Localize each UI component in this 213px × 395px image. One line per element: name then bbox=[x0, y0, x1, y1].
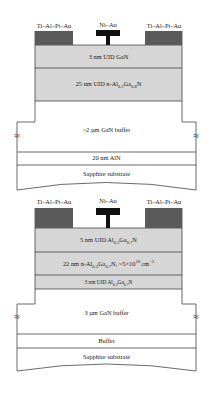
top-aln-label: 20 nm AlN bbox=[17, 155, 196, 161]
top-gate-stem bbox=[106, 36, 110, 45]
break-mark-icon: ≈ bbox=[190, 312, 202, 322]
break-mark-icon: ≈ bbox=[190, 131, 202, 141]
bottom-substrate-label: Sapphire substrate bbox=[17, 354, 196, 360]
text: 25 nm UID n-Al bbox=[76, 80, 118, 87]
bottom-nucleation-label: Buffer bbox=[17, 338, 196, 344]
bottom-gate-label: Ni–Au bbox=[90, 198, 126, 204]
top-buffer-label: ~2 µm GaN buffer bbox=[17, 127, 196, 133]
exponent: −3 bbox=[149, 259, 154, 264]
top-drain-contact bbox=[145, 31, 182, 45]
top-drain-label: Ti–Al–Pt–Au bbox=[140, 23, 188, 29]
bottom-gate-head bbox=[96, 208, 120, 215]
bottom-cap-label: 5 nm UID Al0.3Ga0.7N bbox=[35, 237, 182, 243]
break-mark-icon: ≈ bbox=[11, 131, 23, 141]
bottom-source-label: Ti–Al–Pt–Au bbox=[30, 199, 78, 205]
top-cap-label: 3 nm UID GaN bbox=[35, 54, 182, 60]
bottom-gate-stem bbox=[106, 215, 110, 228]
text: 3 nm UID Al bbox=[85, 279, 113, 285]
top-barrier-label: 25 nm UID n-Al0.2Ga0.8N bbox=[35, 81, 182, 87]
bottom-source-contact bbox=[35, 208, 73, 228]
text: N bbox=[137, 80, 142, 87]
text: cm bbox=[140, 260, 149, 267]
bottom-buffer-label: 3 µm GaN buffer bbox=[17, 310, 196, 316]
text: N bbox=[129, 279, 133, 285]
top-substrate-label: Sapphire substrate bbox=[17, 171, 196, 177]
text: N, ~5×10 bbox=[111, 260, 135, 267]
bottom-drain-contact bbox=[145, 208, 182, 228]
bottom-stack bbox=[17, 208, 196, 371]
break-mark-icon: ≈ bbox=[11, 312, 23, 322]
top-gate-head bbox=[96, 30, 120, 36]
text: 5 nm UID Al bbox=[80, 236, 114, 243]
text: 22 nm n-Al bbox=[63, 260, 92, 267]
bottom-spacer-label: 3 nm UID Al0.3Ga0.7N bbox=[35, 280, 182, 285]
top-source-contact bbox=[35, 31, 73, 45]
bottom-drain-label: Ti–Al–Pt–Au bbox=[140, 199, 188, 205]
text: Ga bbox=[124, 80, 131, 87]
top-source-label: Ti–Al–Pt–Au bbox=[30, 23, 78, 29]
text: Ga bbox=[119, 236, 126, 243]
text: N bbox=[132, 236, 137, 243]
top-gate-label: Ni–Au bbox=[90, 22, 126, 28]
bottom-doped-barrier-label: 22 nm n-Al0.3Ga0.7N, ~5×1018 cm−3 bbox=[35, 261, 182, 267]
